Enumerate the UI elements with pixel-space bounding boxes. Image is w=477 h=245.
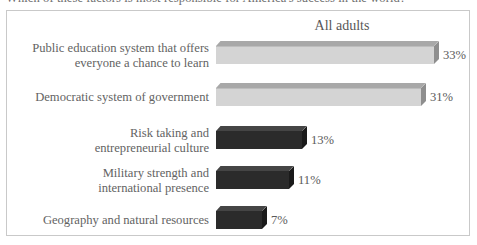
bar-3d[interactable]: [216, 206, 262, 240]
bar-row: Military strength andinternational prese…: [7, 166, 469, 200]
bar-3d[interactable]: [216, 126, 302, 160]
bar-category-label-line1: Democratic system of government: [35, 90, 209, 104]
bar-category-label-line2: international presence: [7, 181, 209, 196]
bar-category-label: Risk taking andentrepreneurial culture: [7, 126, 209, 156]
bar-category-label: Military strength andinternational prese…: [7, 166, 209, 196]
bar-top-face: [216, 126, 307, 131]
bar-front-face: [216, 171, 289, 189]
bar-top-face: [216, 41, 439, 46]
bar-3d[interactable]: [216, 83, 421, 117]
bar-front-face: [216, 131, 302, 149]
bar-row: Public education system that offersevery…: [7, 41, 469, 75]
bar-category-label-line2: entrepreneurial culture: [7, 141, 209, 156]
bar-category-label: Public education system that offersevery…: [7, 41, 209, 71]
bar-value-label: 13%: [311, 132, 334, 148]
bar-category-label: Geography and natural resources: [7, 213, 209, 228]
bar-top-face: [216, 83, 426, 88]
chart-frame: All adults Public education system that …: [6, 10, 470, 236]
bar-category-label-line1: Geography and natural resources: [43, 213, 209, 227]
bar-category-label-line1: Military strength and: [103, 166, 209, 180]
bar-front-face: [216, 88, 421, 106]
bar-3d[interactable]: [216, 166, 289, 200]
bar-value-label: 7%: [271, 212, 288, 228]
bar-value-label: 31%: [430, 89, 453, 105]
bar-front-face: [216, 211, 262, 229]
bar-front-face: [216, 46, 434, 64]
bar-chart-plot-area: Public education system that offersevery…: [7, 38, 469, 234]
bar-category-label-line1: Risk taking and: [130, 126, 209, 140]
chart-title: All adults: [222, 17, 462, 34]
bar-top-face: [216, 166, 294, 171]
bar-3d[interactable]: [216, 41, 434, 75]
survey-question-headline: Which of these factors is most responsib…: [6, 0, 471, 5]
bar-value-label: 11%: [298, 172, 321, 188]
bar-top-face: [216, 206, 267, 211]
bar-category-label-line2: everyone a chance to learn: [7, 56, 209, 71]
bar-category-label: Democratic system of government: [7, 90, 209, 105]
bar-row: Risk taking andentrepreneurial culture13…: [7, 126, 469, 160]
bar-value-label: 33%: [443, 47, 466, 63]
bar-row: Geography and natural resources7%: [7, 206, 469, 240]
bar-category-label-line1: Public education system that offers: [32, 41, 209, 55]
bar-row: Democratic system of government31%: [7, 83, 469, 117]
